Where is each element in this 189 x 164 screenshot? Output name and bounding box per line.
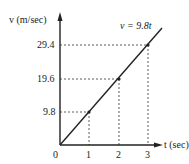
x-tick-label: 3 <box>145 149 150 160</box>
y-axis-arrow-icon <box>58 12 63 21</box>
x-axis-label: t (sec) <box>164 139 189 151</box>
x-tick-label: 1 <box>86 149 91 160</box>
y-tick-label: 29.4 <box>37 39 55 50</box>
y-axis-label: v (m/sec) <box>9 14 47 26</box>
velocity-time-chart: v (m/sec) v = 9.8t 29.4 19.6 9.8 0 1 2 3… <box>0 0 189 164</box>
data-point <box>146 43 149 46</box>
y-tick-label: 19.6 <box>37 73 55 84</box>
equation-label: v = 9.8t <box>120 20 152 31</box>
origin-label: 0 <box>53 149 58 160</box>
data-point <box>117 77 120 80</box>
data-point <box>87 110 90 113</box>
x-tick-label: 2 <box>116 149 121 160</box>
x-axis-arrow-icon <box>154 143 163 148</box>
y-tick-label: 9.8 <box>43 106 56 117</box>
